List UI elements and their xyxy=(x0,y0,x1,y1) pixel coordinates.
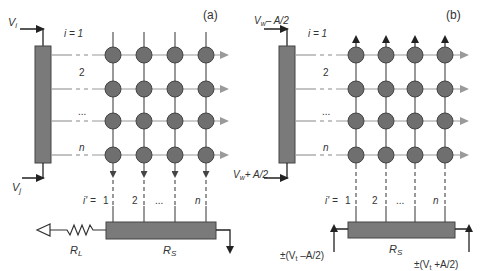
column-sense-arrows xyxy=(113,163,206,176)
ground-wire xyxy=(216,230,230,248)
column-bus-taps xyxy=(356,206,445,222)
bias-left-wire xyxy=(334,229,348,252)
column-lines xyxy=(113,32,206,155)
bias-left-label: ±(Vt –A/2) xyxy=(280,250,324,262)
resistor-rs-label: RS xyxy=(389,243,403,257)
column-up-arrows xyxy=(356,37,445,47)
col-label-2: 2 xyxy=(132,195,138,206)
input-vi-label: Vi xyxy=(8,16,17,30)
panel-a: (a) Vi Vj i = 1 2 ... n xyxy=(8,8,234,258)
bias-right-wire xyxy=(455,229,469,252)
row-label-2: 2 xyxy=(323,67,329,78)
col-label-1: 1 xyxy=(103,195,109,206)
row-label-3: ... xyxy=(78,106,86,117)
output-arrow-icon xyxy=(37,224,50,236)
column-lines xyxy=(356,55,445,165)
bias-left-arrow-icon xyxy=(330,224,338,232)
col-label-n: n xyxy=(195,195,201,206)
memristor-nodes xyxy=(105,47,214,163)
row-lines xyxy=(51,55,226,155)
row-label-1: i = 1 xyxy=(308,28,327,39)
col-label-3: ... xyxy=(396,195,404,206)
col-label-n: n xyxy=(433,195,439,206)
row-label-3: ... xyxy=(322,106,330,117)
bias-right-arrow-icon xyxy=(465,224,473,232)
row-lines xyxy=(295,55,466,155)
word-line-driver-bar xyxy=(279,46,295,163)
ground-arrow-icon xyxy=(226,246,234,254)
row-label-n: n xyxy=(79,142,85,153)
column-bus-taps xyxy=(113,206,206,222)
sense-bus-bar xyxy=(348,222,455,238)
col-label-prefix: i' = xyxy=(83,195,96,206)
input-top-wire xyxy=(264,29,287,46)
memristor-nodes xyxy=(348,47,453,163)
word-line-driver-bar xyxy=(35,46,51,163)
resistor-rs-label: RS xyxy=(163,244,177,258)
sense-bus-bar xyxy=(106,222,216,239)
col-label-prefix: i' = xyxy=(325,195,338,206)
row-label-n: n xyxy=(323,142,329,153)
resistor-rl-label: RL xyxy=(70,244,82,258)
panel-a-tag: (a) xyxy=(203,8,218,22)
bias-right-label: ±(Vt +A/2) xyxy=(414,259,458,271)
panel-b: (b) Vw– A/2 Vw+ A/2 i = 1 2 ... n xyxy=(233,8,473,271)
col-label-2: 2 xyxy=(372,195,378,206)
panel-b-tag: (b) xyxy=(446,8,461,22)
row-label-2: 2 xyxy=(79,67,85,78)
input-bottom-label: Vw+ A/2 xyxy=(233,169,268,181)
input-vj-label: Vj xyxy=(12,181,21,195)
col-label-3: ... xyxy=(155,195,163,206)
col-label-1: 1 xyxy=(345,195,351,206)
input-top-label: Vw– A/2 xyxy=(254,15,289,27)
input-top-wire xyxy=(20,29,43,46)
crossbar-diagram: (a) Vi Vj i = 1 2 ... n xyxy=(0,0,483,271)
load-resistor-icon xyxy=(50,225,106,235)
row-label-1: i = 1 xyxy=(64,28,83,39)
